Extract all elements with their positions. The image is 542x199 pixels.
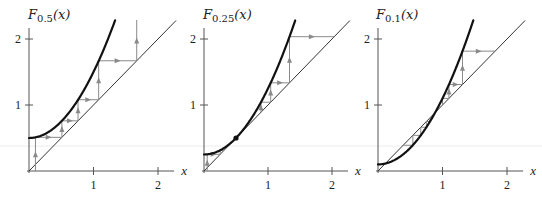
arrow-up-icon [96,77,101,83]
x-tick-label: 2 [329,178,335,192]
y-tick-label: 1 [364,98,370,112]
diagonal-line [29,21,176,171]
x-axis-label: x [354,163,361,178]
arrow-right-icon [67,118,73,123]
x-axis-label: x [529,163,536,178]
fixed-point-dot [233,135,238,140]
arrow-right-icon [309,34,315,39]
function-curve [204,20,295,154]
arrow-right-icon [453,82,459,87]
arrow-up-icon [76,107,81,113]
arrow-up-icon [268,90,273,96]
diagonal-line [204,21,350,171]
panel-c-0.5: F0.5(x) 1122x [15,7,187,192]
arrow-right-icon [115,58,121,63]
arrow-up-icon [33,151,38,157]
arrow-up-icon [134,37,139,43]
arrow-up-icon [205,160,210,166]
arrow-right-icon [277,80,283,85]
plot-area: 1122x [364,20,536,192]
panel-title: F0.25(x) [202,7,252,24]
x-axis-label: x [180,163,187,178]
arrow-up-icon [287,57,292,63]
y-tick-label: 1 [15,98,21,112]
y-tick-label: 2 [190,32,196,46]
function-curve [378,20,473,164]
arrow-up-icon [59,126,64,132]
x-tick-label: 2 [155,178,161,192]
y-tick-label: 2 [15,32,21,46]
x-tick-label: 1 [265,178,271,192]
cobweb-figure: F0.5(x) 1122x F0.25(x) 1122x F0.1(x) 112… [0,0,542,199]
x-tick-label: 2 [504,178,510,192]
panel-c-0.25: F0.25(x) 1122x [190,7,361,192]
panel-title: F0.5(x) [27,7,70,24]
plot-area: 1122x [190,20,361,192]
panel-c-0.1: F0.1(x) 1122x [364,7,536,192]
arrow-right-icon [85,97,91,102]
plot-area: 1122x [15,20,187,192]
diagonal-line [378,21,525,171]
y-tick-label: 2 [364,32,370,46]
y-tick-label: 1 [190,98,196,112]
arrow-right-icon [46,135,52,140]
x-tick-label: 1 [91,178,97,192]
arrow-right-icon [476,49,482,54]
x-tick-label: 1 [440,178,446,192]
arrow-up-icon [460,65,465,71]
panel-title: F0.1(x) [375,7,418,24]
